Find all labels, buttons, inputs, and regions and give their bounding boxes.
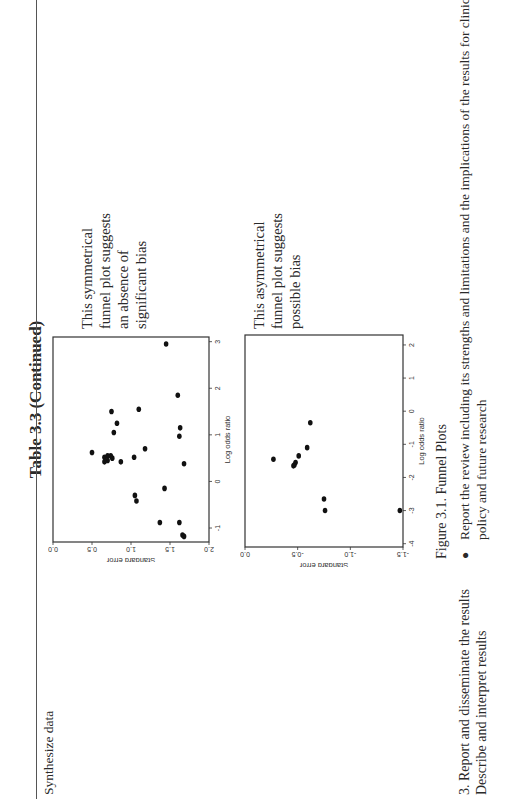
table-top-rule xyxy=(36,0,37,799)
step-3-substep: Describe and interpret results xyxy=(473,631,490,795)
data-point xyxy=(322,496,327,502)
data-point xyxy=(137,406,142,412)
annotation-line: This symmetrical xyxy=(78,213,96,329)
plot-frame xyxy=(245,335,403,547)
data-point xyxy=(102,459,107,465)
x-tick-label: 1 xyxy=(214,433,221,437)
data-point xyxy=(112,430,117,436)
data-point xyxy=(182,534,187,540)
step-3-heading: 3. Report and disseminate the results xyxy=(456,589,473,795)
x-tick-label: 0 xyxy=(214,479,221,483)
data-point xyxy=(109,409,114,415)
annotation-line: possible bias xyxy=(286,213,304,329)
y-tick-label: 1.5 xyxy=(165,546,175,553)
x-tick-label: 3 xyxy=(214,340,221,344)
y-tick-label: -1.0 xyxy=(344,551,356,558)
bullet-text-line2: policy and future research xyxy=(473,0,490,540)
x-tick-label: -1 xyxy=(214,525,221,531)
data-point xyxy=(398,508,403,514)
data-point xyxy=(178,425,183,431)
data-point xyxy=(271,456,276,462)
data-point xyxy=(164,341,169,347)
data-point xyxy=(176,392,181,398)
data-point xyxy=(305,445,310,451)
y-tick-label: 0.5 xyxy=(87,546,97,553)
data-point xyxy=(143,446,148,452)
funnel-plot-asymmetrical-svg: -4-3-2-10120.0-0.5-1.0-1.5Log odds ratio… xyxy=(240,327,430,567)
funnel-plot-asymmetrical: -4-3-2-10120.0-0.5-1.0-1.5Log odds ratio… xyxy=(240,327,430,567)
y-tick-label: 1.0 xyxy=(126,546,136,553)
x-tick-label: -3 xyxy=(408,507,415,513)
data-point xyxy=(115,420,120,426)
data-point xyxy=(134,498,139,504)
annotation-line: an absence of xyxy=(114,213,132,329)
y-tick-label: 0.0 xyxy=(48,546,58,553)
y-axis-label: Standard error xyxy=(299,561,348,567)
x-tick-label: 0 xyxy=(408,409,415,413)
annotation-line: This asymmetrical xyxy=(250,213,268,329)
bullet-text-line1: Report the review including its strength… xyxy=(456,0,473,540)
annotation-asymmetrical: This asymmetrical funnel plot suggests p… xyxy=(250,213,304,329)
data-point xyxy=(133,493,138,499)
bullet-icon: ● xyxy=(458,552,473,559)
plot-frame xyxy=(53,337,209,542)
y-tick-label: 0.0 xyxy=(240,551,250,558)
y-axis-label: Standard error xyxy=(106,556,155,562)
data-point xyxy=(162,486,167,492)
annotation-line: funnel plot suggests xyxy=(96,213,114,329)
x-tick-label: -1 xyxy=(408,441,415,447)
funnel-plot-symmetrical-svg: -101230.00.51.01.52.0Log odds ratioStand… xyxy=(48,332,233,562)
funnel-plot-symmetrical: -101230.00.51.01.52.0Log odds ratioStand… xyxy=(48,332,233,562)
data-point xyxy=(308,420,313,426)
data-point xyxy=(182,461,187,467)
data-point xyxy=(291,463,296,469)
x-tick-label: 1 xyxy=(408,376,415,380)
x-tick-label: 2 xyxy=(408,343,415,347)
data-point xyxy=(119,459,124,465)
data-point xyxy=(90,450,95,456)
annotation-line: funnel plot suggests xyxy=(268,213,286,329)
data-point xyxy=(177,520,182,526)
figure-caption: Figure 3.1. Funnel Plots xyxy=(434,424,450,559)
x-tick-label: 2 xyxy=(214,386,221,390)
y-tick-label: 2.0 xyxy=(204,546,214,553)
annotation-line: significant bias xyxy=(132,213,150,329)
rotated-page: Table 3.3 (Continued) Synthesize data -1… xyxy=(0,0,526,799)
data-point xyxy=(177,433,182,439)
x-axis-label: Log odds ratio xyxy=(417,417,426,465)
data-point xyxy=(323,508,328,514)
annotation-symmetrical: This symmetrical funnel plot suggests an… xyxy=(78,213,150,329)
x-axis-label: Log odds ratio xyxy=(223,416,232,464)
row-label-synthesize: Synthesize data xyxy=(41,711,57,795)
data-point xyxy=(158,520,163,526)
x-tick-label: -4 xyxy=(408,540,415,546)
y-tick-label: -0.5 xyxy=(292,551,304,558)
data-point xyxy=(110,455,115,461)
data-point xyxy=(296,453,301,459)
x-tick-label: -2 xyxy=(408,474,415,480)
y-tick-label: -1.5 xyxy=(397,551,409,558)
data-point xyxy=(132,454,137,460)
